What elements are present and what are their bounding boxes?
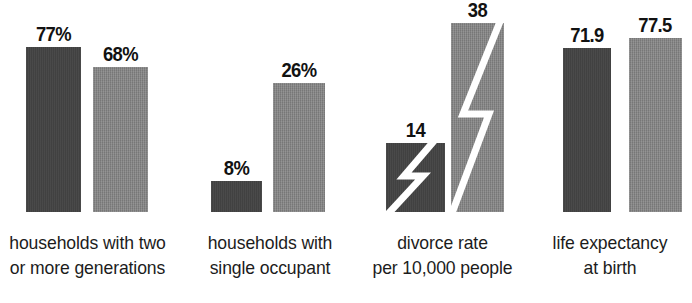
value-label-68-percent: 68% xyxy=(95,44,146,64)
bar-38-divorce[interactable] xyxy=(451,23,504,212)
value-label-77-percent: 77% xyxy=(28,24,79,44)
caption-line-2: or more generations xyxy=(2,255,174,280)
bar-26-percent[interactable] xyxy=(273,83,325,212)
caption-households-multigen: households with two or more generations xyxy=(2,230,174,280)
bar-68-percent[interactable] xyxy=(93,67,148,212)
value-label-26-percent: 26% xyxy=(275,60,323,80)
caption-line-1: households with xyxy=(186,230,353,255)
bar-group-divorce-rate: 14 38 divorce rate per 10,000 people xyxy=(360,0,525,303)
caption-line-2: per 10,000 people xyxy=(357,255,527,280)
caption-divorce-rate: divorce rate per 10,000 people xyxy=(357,230,527,280)
caption-line-2: single occupant xyxy=(186,255,353,280)
caption-line-1: households with two xyxy=(2,230,174,255)
caption-line-2: at birth xyxy=(531,255,689,280)
value-label-38-divorce: 38 xyxy=(453,0,502,20)
caption-households-single: households with single occupant xyxy=(186,230,353,280)
value-label-8-percent: 8% xyxy=(213,158,260,178)
value-label-77-5: 77.5 xyxy=(625,15,686,35)
bar-8-percent[interactable] xyxy=(211,181,262,212)
caption-line-1: life expectancy xyxy=(531,230,689,255)
bar-71-9-life-expectancy[interactable] xyxy=(563,48,611,212)
bar-group-households-single: 8% 26% households with single occupant xyxy=(185,0,355,303)
bar-chart: 77% 68% households with two or more gene… xyxy=(0,0,692,303)
bar-group-life-expectancy: 71.9 77.5 life expectancy at birth xyxy=(525,0,692,303)
caption-line-1: divorce rate xyxy=(357,230,527,255)
value-label-71-9: 71.9 xyxy=(557,25,618,45)
bar-group-households-multigen: 77% 68% households with two or more gene… xyxy=(0,0,175,303)
caption-life-expectancy: life expectancy at birth xyxy=(531,230,689,280)
bar-14-divorce[interactable] xyxy=(386,143,445,212)
value-label-14-divorce: 14 xyxy=(388,120,442,140)
bar-77-percent[interactable] xyxy=(26,47,81,212)
bar-77-5-life-expectancy[interactable] xyxy=(629,38,682,212)
